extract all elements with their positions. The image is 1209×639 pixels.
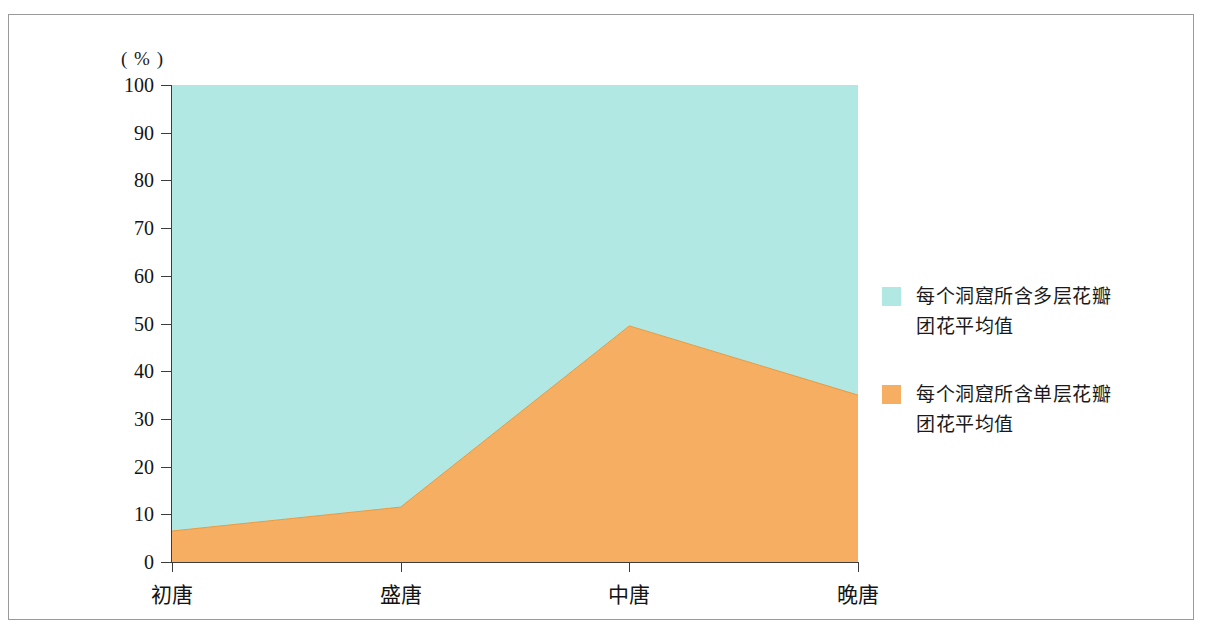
plot-area: [172, 85, 858, 562]
x-axis-tick-mark: [401, 562, 402, 572]
y-axis-tick-mark: [161, 419, 172, 420]
y-axis-tick-label: 30: [110, 409, 154, 429]
y-axis-tick-label: 20: [110, 457, 154, 477]
legend-entry[interactable]: 每个洞窟所含单层花瓣 团花平均值: [882, 380, 1182, 440]
y-axis-tick-mark: [161, 514, 172, 515]
legend-swatch-single-layer: [882, 385, 901, 404]
y-axis-tick-label: 10: [110, 504, 154, 524]
x-axis-tick-label: 中唐: [569, 578, 689, 608]
y-axis-tick-mark: [161, 180, 172, 181]
y-axis-tick-label: 90: [110, 123, 154, 143]
x-axis-tick-label: 盛唐: [341, 578, 461, 608]
y-axis-tick-mark: [161, 467, 172, 468]
y-axis-tick-label: 50: [110, 314, 154, 334]
stacked-area-plot: [172, 85, 858, 562]
legend-label: 每个洞窟所含单层花瓣 团花平均值: [916, 380, 1131, 440]
x-axis-tick-mark: [172, 562, 173, 572]
x-axis-line: [171, 562, 859, 563]
y-axis-tick-mark: [161, 228, 172, 229]
x-axis-tick-mark: [858, 562, 859, 572]
y-axis-tick-label: 70: [110, 218, 154, 238]
x-axis-tick-label: 初唐: [112, 578, 232, 608]
y-axis-tick-mark: [161, 562, 172, 563]
y-axis-tick-label: 40: [110, 361, 154, 381]
legend-label: 每个洞窟所含多层花瓣 团花平均值: [916, 282, 1131, 342]
y-axis-tick-label: 100: [110, 75, 154, 95]
y-axis-tick-mark: [161, 371, 172, 372]
y-axis-tick-label: 60: [110, 266, 154, 286]
y-axis-tick-label: 0: [110, 552, 154, 572]
y-axis-tick-mark: [161, 324, 172, 325]
y-axis-tick-mark: [161, 276, 172, 277]
y-axis-tick-mark: [161, 85, 172, 86]
x-axis-tick-label: 晚唐: [798, 578, 918, 608]
chart-root: ( % ) 1009080706050403020100 初唐盛唐中唐晚唐 每个…: [0, 0, 1209, 639]
x-axis-tick-mark: [629, 562, 630, 572]
legend: 每个洞窟所含多层花瓣 团花平均值每个洞窟所含单层花瓣 团花平均值: [882, 282, 1182, 478]
legend-swatch-multi-layer: [882, 287, 901, 306]
y-axis-tick-mark: [161, 133, 172, 134]
y-axis-tick-label: 80: [110, 170, 154, 190]
legend-entry[interactable]: 每个洞窟所含多层花瓣 团花平均值: [882, 282, 1182, 342]
y-axis-unit-label: ( % ): [121, 48, 164, 70]
